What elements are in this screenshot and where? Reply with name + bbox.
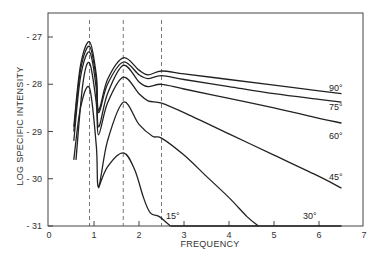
- plot-frame: [48, 13, 363, 226]
- x-tick-label: 6: [316, 230, 321, 240]
- series-label-45deg: 45°: [329, 172, 343, 182]
- x-tick-label: 0: [46, 230, 51, 240]
- x-tick-label: 7: [361, 230, 366, 240]
- y-tick-label: - 27: [26, 32, 42, 42]
- series-label-90deg: 90°: [329, 83, 343, 93]
- y-tick-label: - 28: [26, 79, 42, 89]
- y-axis-ticks: - 27- 28- 29- 30- 31: [26, 32, 53, 231]
- series-label-75deg: 75°: [329, 102, 343, 112]
- y-axis-label: LOG SPECIFIC INTENSITY: [15, 66, 25, 185]
- curve-45deg: [76, 62, 342, 188]
- x-axis-ticks: 01234567: [46, 221, 366, 240]
- curve-60deg: [74, 52, 342, 141]
- series-label-30deg: 30°: [303, 211, 317, 221]
- x-tick-label: 2: [136, 230, 141, 240]
- series-label-60deg: 60°: [329, 131, 343, 141]
- x-tick-label: 1: [91, 230, 96, 240]
- x-tick-label: 5: [271, 230, 276, 240]
- series-label-15deg: 15°: [166, 211, 180, 221]
- x-axis-label: FREQUENCY: [180, 239, 239, 249]
- curve-30deg: [74, 86, 258, 226]
- y-tick-label: - 29: [26, 127, 42, 137]
- curve-15deg: [99, 153, 171, 226]
- series-curves: [74, 42, 342, 226]
- y-tick-label: - 31: [26, 221, 42, 231]
- intensity-chart: - 27- 28- 29- 30- 31 01234567 90°75°60°4…: [0, 0, 382, 258]
- y-tick-label: - 30: [26, 174, 42, 184]
